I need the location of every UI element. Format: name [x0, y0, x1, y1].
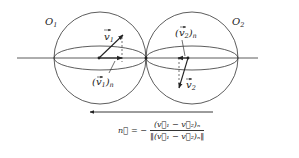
diagram-canvas: O1 O2 v1 (v1)n (v2)n v2 n⃗ = − (v⃗₁ − v⃗… — [0, 0, 299, 158]
label-v1: v1 — [104, 30, 114, 44]
formula-equals: = − — [131, 126, 147, 135]
svg-text:v2: v2 — [186, 79, 196, 92]
formula-lhs: n⃗ — [118, 126, 128, 135]
v2n-leader — [182, 40, 185, 56]
label-v1n: (v1)n — [92, 76, 114, 89]
svg-text:(v1)n: (v1)n — [92, 76, 114, 89]
v1n-leader — [109, 61, 115, 73]
formula-fraction: (v⃗₁ − v⃗₂)ₙ ‖(v⃗₁ − v⃗₂)ₙ‖ — [150, 120, 204, 141]
normal-vector-formula: n⃗ = − (v⃗₁ − v⃗₂)ₙ ‖(v⃗₁ − v⃗₂)ₙ‖ — [118, 120, 204, 141]
formula-denominator: ‖(v⃗₁ − v⃗₂)ₙ‖ — [150, 131, 204, 141]
svg-text:v1: v1 — [104, 31, 114, 44]
label-o2: O2 — [232, 16, 244, 29]
svg-text:(v2)n: (v2)n — [175, 27, 197, 40]
formula-numerator: (v⃗₁ − v⃗₂)ₙ — [150, 120, 204, 131]
label-v2: v2 — [186, 79, 196, 92]
label-o1: O1 — [45, 16, 57, 29]
label-v2n: (v2)n — [175, 27, 197, 40]
tangent-point — [145, 57, 148, 60]
